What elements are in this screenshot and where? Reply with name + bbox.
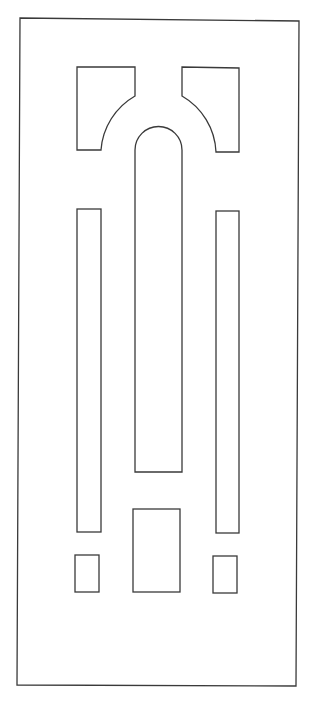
right-tall-panel — [216, 211, 239, 533]
center-arch-panel — [135, 127, 182, 472]
door-panel-diagram — [0, 0, 317, 705]
door-drawing-canvas — [0, 0, 317, 705]
left-tall-panel — [77, 209, 101, 532]
door-outer-frame — [17, 18, 299, 686]
top-left-corner-panel — [77, 67, 135, 150]
top-right-corner-panel — [182, 67, 239, 152]
right-small-panel — [213, 556, 237, 593]
left-small-panel — [75, 555, 99, 592]
center-lower-panel — [133, 509, 180, 592]
